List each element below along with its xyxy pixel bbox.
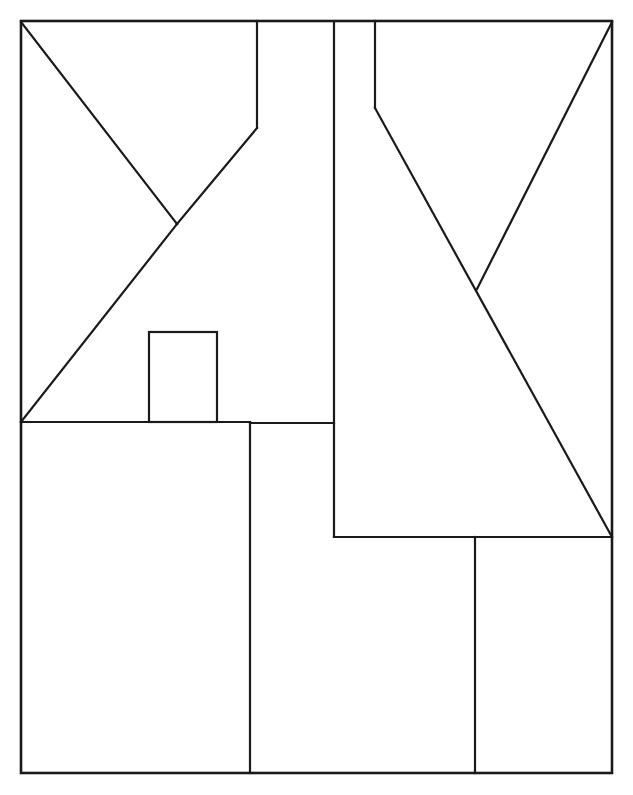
line-drawing-figure — [0, 0, 633, 795]
drawing-canvas — [0, 0, 633, 795]
diagonal-top-left-descending — [21, 22, 177, 224]
figure-group — [21, 21, 612, 773]
chimney-rectangle — [149, 332, 217, 422]
diagonal-right-long-descending — [375, 108, 612, 537]
diagonal-top-right-descending — [477, 22, 612, 289]
diagonal-left-long-ascending — [21, 224, 177, 422]
diagonal-left-v-right-ascending — [177, 128, 257, 224]
outer-rectangle — [21, 21, 612, 773]
